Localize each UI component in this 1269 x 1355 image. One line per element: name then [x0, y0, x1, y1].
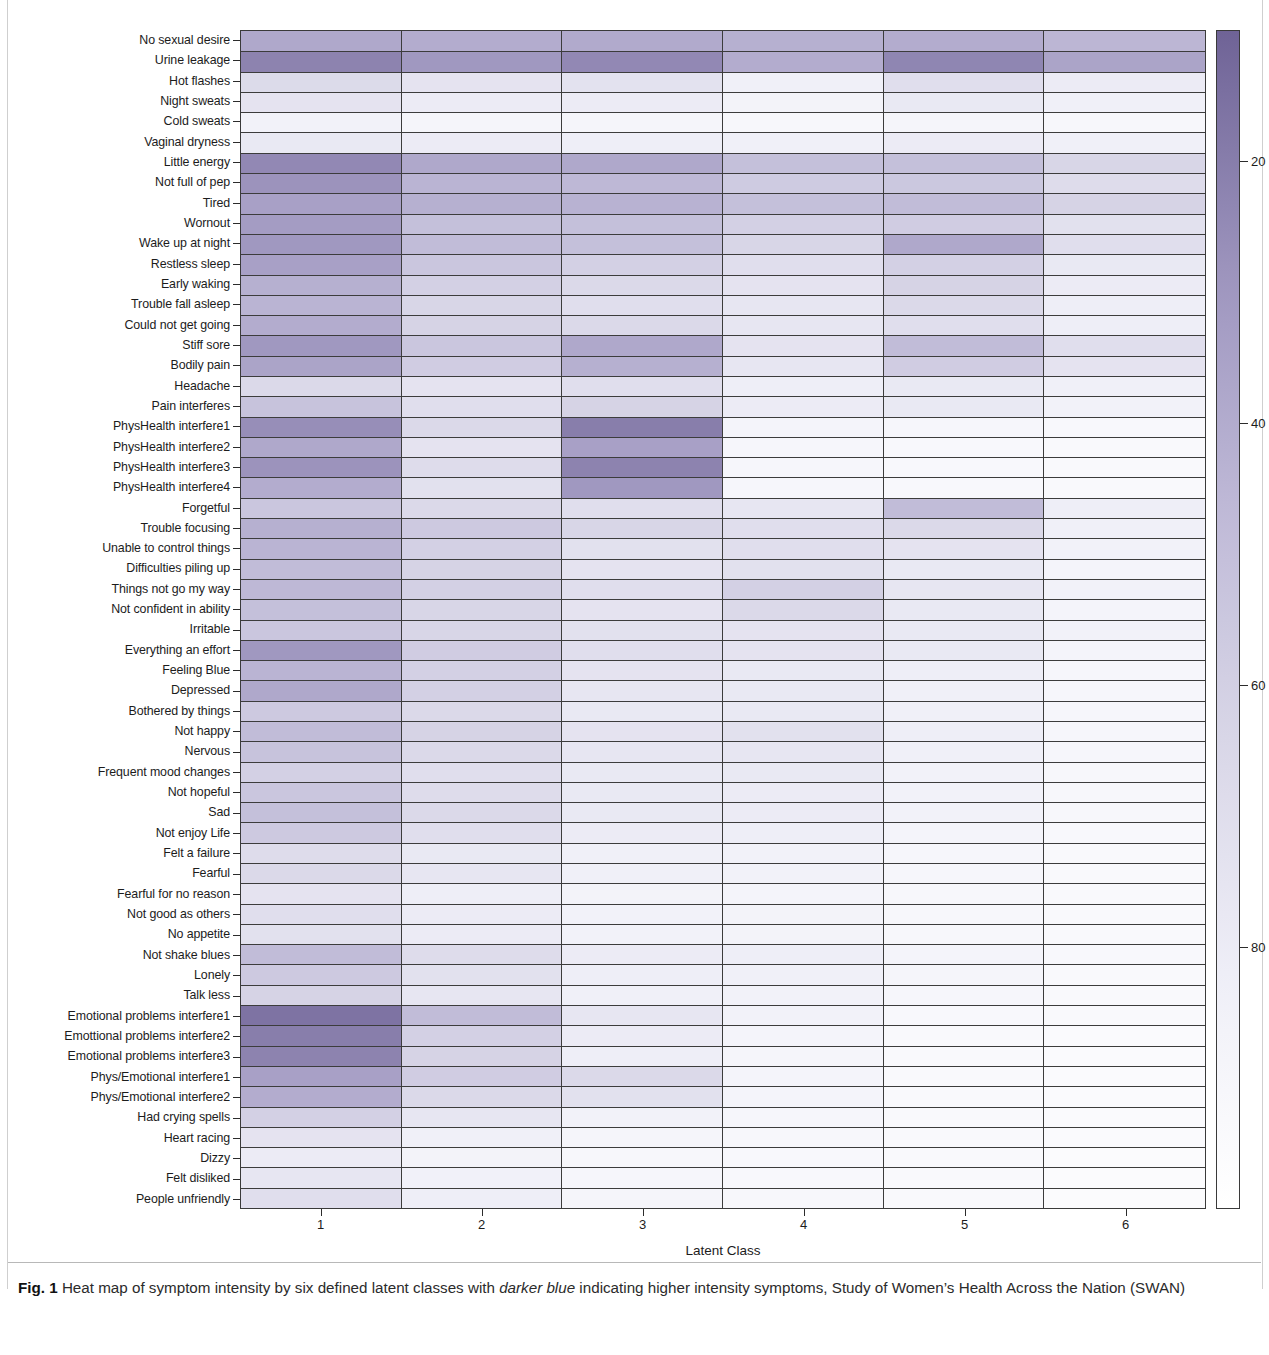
heatmap-cell — [402, 498, 563, 518]
heatmap-cell — [723, 579, 884, 599]
heatmap-cell — [1044, 31, 1205, 51]
y-axis-label: Emottional problems interfere2 — [0, 1026, 232, 1046]
heatmap-cell — [241, 579, 402, 599]
y-axis-label: Pain interferes — [0, 396, 232, 416]
heatmap-cell — [723, 92, 884, 112]
heatmap-cell — [1044, 843, 1205, 863]
heatmap-cell — [723, 559, 884, 579]
heatmap-cell — [562, 417, 723, 437]
heatmap-cell — [1044, 315, 1205, 335]
heatmap-cell — [562, 498, 723, 518]
heatmap-cell — [562, 254, 723, 274]
heatmap-cell — [562, 538, 723, 558]
heatmap-cell — [402, 782, 563, 802]
heatmap-cell — [884, 457, 1045, 477]
heatmap-cell — [402, 356, 563, 376]
heatmap-cell — [562, 1005, 723, 1025]
heatmap-cell — [723, 457, 884, 477]
heatmap-cell — [723, 153, 884, 173]
y-axis-tick — [233, 701, 240, 721]
heatmap-cell — [1044, 335, 1205, 355]
heatmap-cell — [402, 72, 563, 92]
heatmap-cell — [562, 1066, 723, 1086]
heatmap-cell — [402, 964, 563, 984]
heatmap-cell — [723, 924, 884, 944]
heatmap-cell — [884, 396, 1045, 416]
heatmap-cell — [723, 477, 884, 497]
heatmap-cell — [402, 234, 563, 254]
y-axis-tick — [233, 721, 240, 741]
heatmap-cell — [1044, 92, 1205, 112]
heatmap-cell — [884, 112, 1045, 132]
heatmap-cell — [1044, 822, 1205, 842]
colorbar-tick-label: 80 — [1251, 940, 1265, 955]
heatmap-cell — [402, 315, 563, 335]
y-axis-label: Not happy — [0, 721, 232, 741]
heatmap-cell — [723, 883, 884, 903]
heatmap-cell — [723, 701, 884, 721]
heatmap-cell — [402, 985, 563, 1005]
y-axis-label: Not full of pep — [0, 172, 232, 192]
heatmap-cell — [241, 51, 402, 71]
colorbar-tick-label: 40 — [1251, 416, 1265, 431]
heatmap-cell — [723, 802, 884, 822]
y-axis-tick — [233, 620, 240, 640]
heatmap-cell — [402, 417, 563, 437]
colorbar-tick — [1240, 947, 1248, 948]
colorbar-tick — [1240, 423, 1248, 424]
y-axis-label: Not confident in ability — [0, 599, 232, 619]
heatmap-cell — [723, 741, 884, 761]
y-axis-tick — [233, 233, 240, 253]
y-axis-tick — [233, 681, 240, 701]
heatmap-cell — [402, 660, 563, 680]
y-axis-label: Restless sleep — [0, 254, 232, 274]
heatmap-cell — [402, 1127, 563, 1147]
heatmap-cell — [884, 51, 1045, 71]
heatmap-cell — [884, 315, 1045, 335]
heatmap-cell — [562, 944, 723, 964]
heatmap-cell — [241, 802, 402, 822]
heatmap-cell — [723, 72, 884, 92]
heatmap-cell — [1044, 376, 1205, 396]
heatmap-cell — [562, 72, 723, 92]
heatmap-cell — [562, 315, 723, 335]
heatmap-cell — [562, 356, 723, 376]
heatmap-cell — [402, 924, 563, 944]
y-axis-tick — [233, 1006, 240, 1026]
y-axis-label: Nervous — [0, 741, 232, 761]
y-axis-label: PhysHealth interfere3 — [0, 457, 232, 477]
heatmap-cell — [1044, 1025, 1205, 1045]
heatmap-cell — [723, 498, 884, 518]
heatmap-cell — [1044, 924, 1205, 944]
heatmap-cell — [723, 1107, 884, 1127]
heatmap-cell — [884, 559, 1045, 579]
heatmap-cell — [884, 701, 1045, 721]
heatmap-cell — [562, 234, 723, 254]
heatmap-cell — [562, 1147, 723, 1167]
heatmap-cell — [723, 843, 884, 863]
y-axis-tick — [233, 640, 240, 660]
heatmap-cell — [1044, 1127, 1205, 1147]
colorbar-gradient — [1216, 30, 1240, 1209]
heatmap-cell — [241, 396, 402, 416]
heatmap-cell — [241, 660, 402, 680]
heatmap-cell — [402, 721, 563, 741]
heatmap-cell — [723, 538, 884, 558]
y-axis-ticks — [233, 30, 240, 1209]
heatmap-cell — [1044, 254, 1205, 274]
heatmap-cell — [241, 193, 402, 213]
heatmap-cell — [1044, 437, 1205, 457]
heatmap-cell — [723, 721, 884, 741]
y-axis-label: PhysHealth interfere2 — [0, 437, 232, 457]
heatmap-cell — [402, 437, 563, 457]
heatmap-cell — [241, 964, 402, 984]
heatmap-cell — [241, 741, 402, 761]
y-axis-label: Phys/Emotional interfere2 — [0, 1087, 232, 1107]
heatmap-cell — [1044, 214, 1205, 234]
y-axis-tick — [233, 863, 240, 883]
heatmap-cell — [562, 822, 723, 842]
heatmap-cell — [884, 762, 1045, 782]
heatmap-cell — [562, 112, 723, 132]
heatmap-cell — [884, 1107, 1045, 1127]
heatmap-cell — [402, 275, 563, 295]
